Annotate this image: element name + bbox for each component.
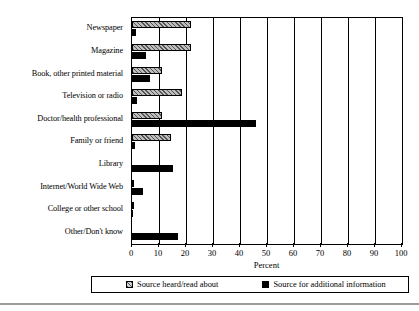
- x-tick-mark: [293, 243, 294, 247]
- bar-heard-read-about: [132, 89, 182, 96]
- x-tick-mark: [266, 243, 267, 247]
- bar-group: [132, 225, 402, 241]
- x-tick-label: 40: [224, 248, 254, 258]
- chart-legend: Source heard/read about Source for addit…: [91, 276, 409, 293]
- bar-group: [132, 157, 402, 173]
- x-axis-title: Percent: [131, 260, 402, 271]
- y-axis-label: College or other school: [0, 204, 123, 213]
- bar-additional-information: [132, 29, 136, 36]
- y-axis-label: Magazine: [0, 46, 123, 55]
- y-axis-label: Doctor/health professional: [0, 114, 123, 123]
- legend-label-source-heard-read-about: Source heard/read about: [137, 280, 218, 290]
- bar-group: [132, 202, 402, 218]
- x-tick-label: 90: [359, 248, 389, 258]
- bar-heard-read-about: [132, 67, 162, 74]
- legend-entry-source-for-additional-information: Source for additional information: [262, 280, 385, 290]
- y-axis-label: Library: [0, 159, 123, 168]
- x-tick-mark: [347, 243, 348, 247]
- chart-container: NewspaperMagazineBook, other printed mat…: [0, 0, 419, 311]
- bar-group: [132, 21, 402, 37]
- bar-additional-information: [132, 165, 173, 172]
- bar-heard-read-about: [132, 134, 171, 141]
- x-tick-mark: [401, 243, 402, 247]
- y-axis-label: Internet/World Wide Web: [0, 182, 123, 191]
- x-tick-label: 30: [197, 248, 227, 258]
- x-tick-label: 70: [305, 248, 335, 258]
- bar-additional-information: [132, 210, 133, 217]
- x-tick-mark: [131, 243, 132, 247]
- bar-heard-read-about: [132, 44, 191, 51]
- y-axis-label: Television or radio: [0, 91, 123, 100]
- bar-additional-information: [132, 142, 135, 149]
- legend-swatch-solid-icon: [262, 281, 269, 288]
- bar-additional-information: [132, 120, 256, 127]
- bar-heard-read-about: [132, 202, 134, 209]
- bar-additional-information: [132, 188, 143, 195]
- bar-heard-read-about: [132, 112, 162, 119]
- x-tick-mark: [239, 243, 240, 247]
- bar-heard-read-about: [132, 21, 191, 28]
- x-tick-label: 50: [251, 248, 281, 258]
- bar-additional-information: [132, 97, 137, 104]
- x-tick-label: 80: [332, 248, 362, 258]
- bar-additional-information: [132, 75, 150, 82]
- legend-entry-source-heard-read-about: Source heard/read about: [126, 280, 218, 290]
- x-tick-mark: [185, 243, 186, 247]
- legend-swatch-hatched-icon: [126, 281, 133, 288]
- x-tick-mark: [212, 243, 213, 247]
- x-tick-mark: [158, 243, 159, 247]
- x-tick-label: 100: [386, 248, 416, 258]
- bar-group: [132, 67, 402, 83]
- bar-group: [132, 44, 402, 60]
- x-tick-mark: [320, 243, 321, 247]
- x-tick-label: 60: [278, 248, 308, 258]
- bar-additional-information: [132, 233, 178, 240]
- y-axis-label: Newspaper: [0, 23, 123, 32]
- bar-group: [132, 134, 402, 150]
- x-tick-label: 10: [143, 248, 173, 258]
- bar-group: [132, 112, 402, 128]
- x-tick-mark: [374, 243, 375, 247]
- y-axis-label: Book, other printed material: [0, 69, 123, 78]
- bar-heard-read-about: [132, 180, 134, 187]
- y-axis-label: Other/Don't know: [0, 227, 123, 236]
- plot-area: [131, 17, 403, 245]
- page-bottom-rule: [0, 303, 419, 305]
- legend-label-source-for-additional-information: Source for additional information: [273, 280, 385, 290]
- y-axis-label: Family or friend: [0, 136, 123, 145]
- x-tick-label: 0: [116, 248, 146, 258]
- bar-group: [132, 89, 402, 105]
- y-axis-category-labels: NewspaperMagazineBook, other printed mat…: [0, 17, 127, 243]
- x-tick-label: 20: [170, 248, 200, 258]
- bar-additional-information: [132, 52, 146, 59]
- bar-group: [132, 180, 402, 196]
